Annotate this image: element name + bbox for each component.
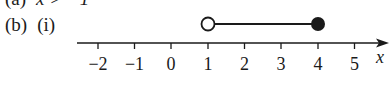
closed-endpoint-icon — [311, 17, 325, 31]
tick-marks — [98, 43, 355, 49]
axis-variable-label: x — [375, 47, 384, 67]
tick-label: 5 — [350, 54, 359, 74]
tick-label: 2 — [240, 54, 249, 74]
tick-label: 4 — [314, 54, 323, 74]
tick-label: 0 — [167, 54, 176, 74]
tick-label: −1 — [125, 54, 144, 74]
tick-label: 3 — [277, 54, 286, 74]
tick-label: 1 — [204, 54, 213, 74]
open-endpoint-icon — [202, 18, 215, 31]
number-line: −2 −1 0 1 2 3 4 5 x — [0, 0, 389, 87]
tick-label: −2 — [88, 54, 107, 74]
